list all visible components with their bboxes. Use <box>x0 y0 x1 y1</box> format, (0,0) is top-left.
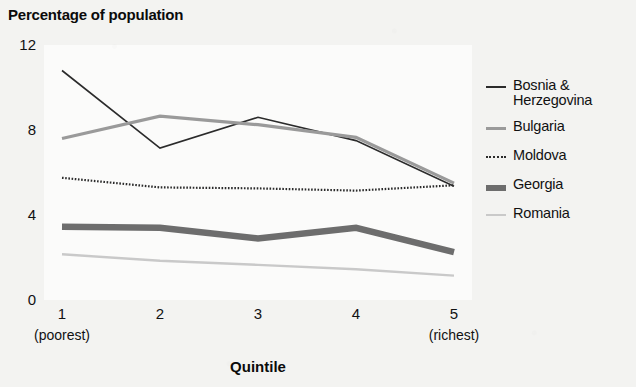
legend-item[interactable]: Moldova <box>486 148 636 166</box>
x-tick-label: 2 <box>130 306 190 321</box>
legend-swatch-icon <box>486 206 506 224</box>
legend-label: Georgia <box>513 177 563 192</box>
x-tick-label: 4 <box>326 306 386 321</box>
legend-item[interactable]: Romania <box>486 206 636 224</box>
x-tick-sublabel: (richest) <box>399 328 509 342</box>
y-tick-label: 8 <box>2 122 36 137</box>
x-axis-tick-labels: 12345 <box>44 306 472 326</box>
series-line <box>62 254 454 275</box>
legend-item[interactable]: Bulgaria <box>486 119 636 137</box>
x-axis-sublabels: (poorest)(richest) <box>44 328 472 348</box>
chart-title: Percentage of population <box>8 6 183 23</box>
series-line <box>62 178 454 191</box>
legend-swatch-icon <box>486 148 506 166</box>
chart-figure: Percentage of population 12840 12345 (po… <box>0 0 636 387</box>
chart-legend: Bosnia & HerzegovinaBulgariaMoldovaGeorg… <box>486 78 636 235</box>
y-axis-tick-labels: 12840 <box>0 45 36 300</box>
legend-label: Bulgaria <box>513 119 565 134</box>
legend-swatch-icon <box>486 119 506 137</box>
y-tick-label: 12 <box>2 37 36 52</box>
y-tick-label: 0 <box>2 292 36 307</box>
legend-label: Bosnia & Herzegovina <box>513 78 636 108</box>
legend-swatch-icon <box>486 177 506 195</box>
legend-label: Romania <box>513 206 570 221</box>
plot-area <box>44 45 472 300</box>
x-axis-title: Quintile <box>44 358 472 375</box>
x-tick-label: 1 <box>32 306 92 321</box>
legend-item[interactable]: Georgia <box>486 177 636 195</box>
series-line <box>62 227 454 253</box>
x-tick-label: 5 <box>424 306 484 321</box>
series-line <box>62 71 454 187</box>
y-tick-label: 4 <box>2 207 36 222</box>
series-line <box>62 116 454 183</box>
legend-item[interactable]: Bosnia & Herzegovina <box>486 78 636 108</box>
series-plot <box>44 45 472 300</box>
x-tick-label: 3 <box>228 306 288 321</box>
legend-label: Moldova <box>513 148 566 163</box>
x-tick-sublabel: (poorest) <box>7 328 117 342</box>
legend-swatch-icon <box>486 78 506 96</box>
